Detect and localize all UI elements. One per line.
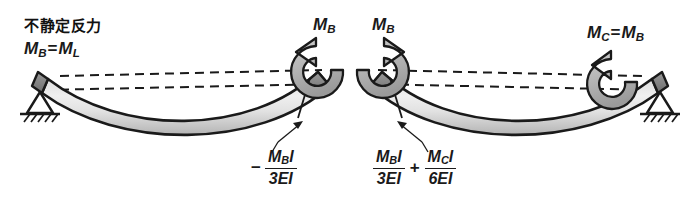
mc-subscript: C [601,31,609,43]
right-t2-sub: C [441,154,449,166]
beam-moment-diagram: 不静定反力 MB=ML MB MB MC=MB − MBl 3EI MBl 3E… [0,0,695,202]
mc-symbol2: M [621,23,635,42]
right-term1-denominator: 3EI [373,168,405,187]
reaction-subscript-right: L [73,47,80,59]
mb-left-symbol: M [313,15,327,34]
left-formula-fraction: MBl 3EI [265,148,297,187]
left-num-sub: B [281,154,289,166]
left-formula-minus-sign: − [251,158,265,178]
mb-right-subscript: B [386,23,394,35]
right-formula-operator: + [405,158,425,178]
right-term1-numerator: MBl [373,148,405,168]
right-t1-l: l [397,148,401,165]
right-axis-reference-dashed-line [370,84,655,90]
reaction-symbol-left: M [24,39,38,58]
right-t2-l: l [449,148,453,165]
left-formula-numerator: MBl [265,148,297,168]
right-formula-fraction-1: MBl 3EI [373,148,405,187]
left-formula-denominator: 3EI [265,168,297,187]
left-deflected-beam [42,72,330,135]
moment-label-mc-equals-mb: MC=MB [587,24,644,43]
mc-subscript2: B [636,31,644,43]
left-rotation-formula: − MBl 3EI [251,148,297,187]
right-beam-group [357,38,680,152]
mc-symbol: M [587,23,601,42]
right-t1-sub: B [389,154,397,166]
reaction-symbol-right: M [58,39,72,58]
right-term2-denominator: 6EI [425,168,457,187]
moment-arrow-mc-right [587,51,637,109]
left-upper-reference-dashed-line [60,70,322,76]
moment-label-mb-left: MB [313,16,336,35]
right-formula-fraction-2: MCl 6EI [425,148,457,187]
moment-label-mb-right: MB [372,16,395,35]
moment-arrow-mb-left [291,38,343,98]
reaction-equals: = [47,39,59,58]
left-num-l: l [289,148,293,165]
moment-arrow-mb-right [357,38,409,98]
right-t1-m: M [376,148,389,165]
right-term2-numerator: MCl [425,148,457,168]
left-num-m: M [268,148,281,165]
mb-left-subscript: B [327,23,335,35]
right-rotation-formula: MBl 3EI + MCl 6EI [373,148,456,187]
indeterminate-reaction-note: 不静定反力 [24,14,102,35]
mc-equals: = [610,23,622,42]
left-axis-reference-dashed-line [45,84,330,90]
reaction-relation-label: MB=ML [24,40,80,59]
mb-right-symbol: M [372,15,386,34]
reaction-subscript-left: B [38,47,46,59]
right-t2-m: M [428,148,441,165]
